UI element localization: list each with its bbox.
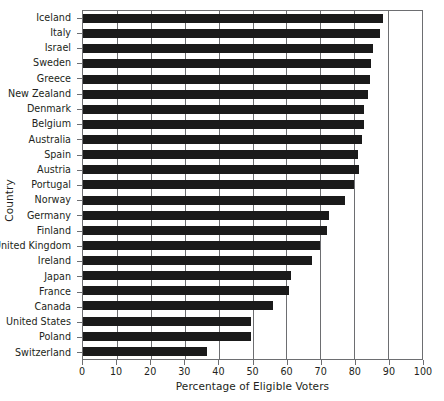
x-axis-tick-mark	[423, 360, 424, 365]
bar-row	[83, 26, 422, 41]
bar-chart: Country IcelandItalyIsraelSwedenGreeceNe…	[0, 0, 444, 401]
y-axis-tick-label: New Zealand	[0, 86, 76, 101]
bar-row	[83, 102, 422, 117]
bar	[83, 44, 373, 53]
bar-row	[83, 268, 422, 283]
bar	[83, 196, 345, 205]
x-axis-tick-mark	[150, 360, 151, 365]
y-axis-tick-label: Israel	[0, 40, 76, 55]
bar	[83, 286, 289, 295]
bar-row	[83, 56, 422, 71]
x-axis-tick-mark	[287, 360, 288, 365]
bar	[83, 271, 291, 280]
bar	[83, 226, 327, 235]
bar-row	[83, 344, 422, 359]
x-axis-tick-label: 70	[315, 366, 327, 377]
bar	[83, 135, 362, 144]
x-axis-tick-label: 0	[79, 366, 85, 377]
bar-row	[83, 298, 422, 313]
bar	[83, 332, 251, 341]
y-axis-tick-label: Australia	[0, 132, 76, 147]
bar	[83, 150, 358, 159]
bar	[83, 180, 354, 189]
y-axis-tick-label: Poland	[0, 330, 76, 345]
bar-row	[83, 329, 422, 344]
bar	[83, 105, 364, 114]
y-axis-tick-label: Norway	[0, 193, 76, 208]
x-axis-tick-mark	[355, 360, 356, 365]
bar	[83, 75, 370, 84]
x-axis-ticks: 0102030405060708090100	[82, 360, 423, 366]
bar-series	[83, 11, 422, 359]
bar-row	[83, 314, 422, 329]
bar-row	[83, 162, 422, 177]
bar-row	[83, 208, 422, 223]
y-axis-tick-label: United Kingdom	[0, 238, 76, 253]
y-axis-tick-label: Denmark	[0, 101, 76, 116]
y-axis-tick-label: Germany	[0, 208, 76, 223]
bar	[83, 317, 251, 326]
bar-row	[83, 41, 422, 56]
x-axis-tick-label: 20	[144, 366, 156, 377]
x-axis-tick-label: 50	[246, 366, 258, 377]
y-axis-tick-label: Canada	[0, 299, 76, 314]
x-axis-tick-mark	[116, 360, 117, 365]
y-axis-tick-label: Switzerland	[0, 345, 76, 360]
x-axis-tick-mark	[184, 360, 185, 365]
y-axis-tick-label: Finland	[0, 223, 76, 238]
bar-row	[83, 132, 422, 147]
bar	[83, 211, 329, 220]
x-axis-tick-label: 60	[280, 366, 292, 377]
x-axis-tick-label: 90	[383, 366, 395, 377]
y-axis-tick-label: Austria	[0, 162, 76, 177]
bar	[83, 165, 359, 174]
x-axis-tick-mark	[82, 360, 83, 365]
bar	[83, 301, 273, 310]
y-axis-tick-label: United States	[0, 314, 76, 329]
bar	[83, 29, 380, 38]
bar-row	[83, 147, 422, 162]
bar-row	[83, 87, 422, 102]
bar-row	[83, 11, 422, 26]
bar-row	[83, 283, 422, 298]
bar	[83, 347, 207, 356]
plot-area	[82, 10, 423, 360]
x-axis-tick-label: 10	[110, 366, 122, 377]
bar	[83, 59, 371, 68]
x-axis-tick-label: 100	[414, 366, 432, 377]
x-axis-tick-label: 40	[212, 366, 224, 377]
bar	[83, 120, 364, 129]
x-axis-tick-mark	[218, 360, 219, 365]
bar	[83, 241, 320, 250]
y-axis-tick-label: Spain	[0, 147, 76, 162]
bar-row	[83, 238, 422, 253]
x-axis-tick-label: 30	[178, 366, 190, 377]
bar	[83, 256, 312, 265]
x-axis-tick-mark	[321, 360, 322, 365]
x-axis-tick-label: 80	[349, 366, 361, 377]
x-axis-tick-mark	[253, 360, 254, 365]
bar-row	[83, 72, 422, 87]
bar-row	[83, 223, 422, 238]
y-axis-tick-label: Sweden	[0, 56, 76, 71]
y-axis-tick-label: France	[0, 284, 76, 299]
x-axis-tick-mark	[389, 360, 390, 365]
y-axis-tick-label: Iceland	[0, 10, 76, 25]
bar-row	[83, 117, 422, 132]
bar	[83, 90, 368, 99]
bar-row	[83, 193, 422, 208]
bar-row	[83, 177, 422, 192]
y-axis-tick-label: Japan	[0, 269, 76, 284]
x-axis-title: Percentage of Eligible Voters	[82, 380, 423, 392]
y-axis-tick-label: Portugal	[0, 177, 76, 192]
bar-row	[83, 253, 422, 268]
y-axis-tick-label: Greece	[0, 71, 76, 86]
y-axis-tick-labels: IcelandItalyIsraelSwedenGreeceNew Zealan…	[0, 10, 76, 360]
bar	[83, 14, 383, 23]
y-axis-tick-label: Italy	[0, 25, 76, 40]
y-axis-tick-label: Ireland	[0, 254, 76, 269]
y-axis-tick-label: Belgium	[0, 117, 76, 132]
